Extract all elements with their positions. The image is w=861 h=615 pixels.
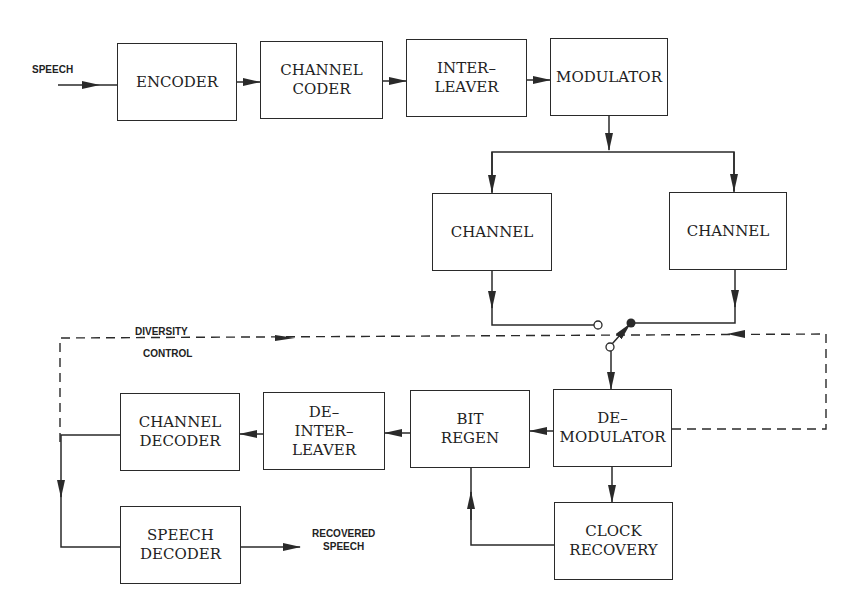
speech-input-label: SPEECH (32, 63, 73, 76)
diversity-label: DIVERSITY (135, 325, 188, 338)
dashed-arrow-right (275, 335, 295, 341)
modulator-block: MODULATOR (550, 38, 668, 116)
channel-coder-block: CHANNEL CODER (260, 41, 383, 119)
clock-recovery-block: CLOCK RECOVERY (554, 502, 673, 580)
switch-contact-common (606, 343, 614, 351)
control-label: CONTROL (143, 347, 192, 360)
channel-decoder-block: CHANNEL DECODER (120, 393, 240, 471)
switch-contact-left (594, 321, 602, 329)
channel-right-block: CHANNEL (669, 192, 787, 270)
demodulator-block: DE– MODULATOR (553, 389, 672, 467)
bit-regen-block: BIT REGEN (410, 390, 530, 468)
recovered-speech-label: RECOVERED SPEECH (312, 527, 375, 553)
dashed-arrow-left (727, 330, 745, 338)
switch-contact-right (627, 319, 636, 328)
speech-decoder-block: SPEECH DECODER (120, 506, 241, 584)
deinterleaver-block: DE– INTER– LEAVER (263, 392, 385, 470)
interleaver-block: INTER– LEAVER (406, 39, 527, 117)
switch-arm (612, 324, 630, 344)
encoder-block: ENCODER (117, 43, 237, 121)
channel-left-block: CHANNEL (432, 193, 552, 271)
